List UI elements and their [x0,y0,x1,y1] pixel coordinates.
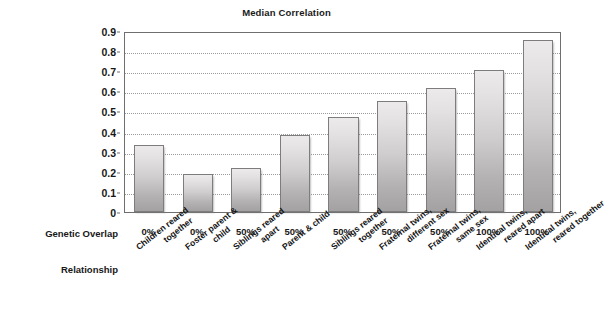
plot-area [124,32,561,213]
y-axis-tick-mark [117,112,120,113]
y-axis-tick-mark [117,72,120,73]
plot-inner [125,33,560,212]
chart-title: Median Correlation [0,7,573,18]
y-axis-tick-label: 0.6 [101,86,116,98]
y-axis-tick-mark [117,172,120,173]
y-axis-tick-label: 0.3 [101,147,116,159]
y-axis-tick-mark [117,92,120,93]
y-axis-tick-label: 0.9 [101,26,116,38]
y-axis-tick-label: 0.8 [101,46,116,58]
y-axis-tick-label: 0.2 [101,167,116,179]
y-axis-tick-mark [117,32,120,33]
y-axis-tick-mark [117,132,120,133]
y-axis-tick-label: 0.1 [101,187,116,199]
y-axis-tick-mark [117,213,120,214]
genetic-overlap-row-label: Genetic Overlap [10,228,118,239]
y-axis-tick-label: 0 [110,207,116,219]
bar-slot [134,33,164,212]
y-axis-tick-mark [117,152,120,153]
y-axis: 0.90.80.70.60.50.40.30.20.10 [88,32,120,213]
relationship-row-label: Relationship [10,264,118,275]
relationship-values: Children rearedtogetherFoster parent &ch… [124,244,573,335]
y-axis-tick-mark [117,52,120,53]
y-axis-tick-label: 0.7 [101,66,116,78]
bar[interactable] [134,145,164,212]
y-axis-tick-mark [117,192,120,193]
y-axis-tick-label: 0.5 [101,106,116,118]
y-axis-tick-label: 0.4 [101,127,116,139]
